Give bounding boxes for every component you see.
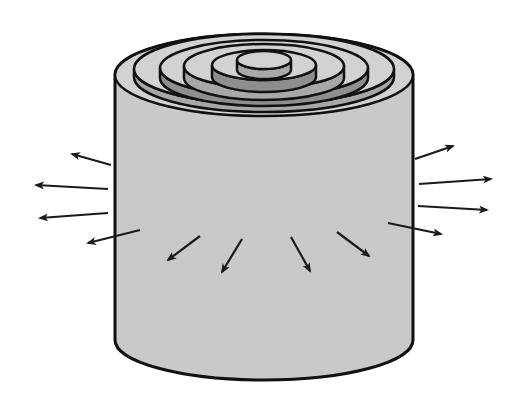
concentric-cylinder-diagram [0,0,523,399]
arrow-right-9 [419,179,491,184]
ring-5 [237,51,291,69]
arrow-left-2 [40,213,108,218]
arrow-left-1 [36,185,108,189]
arrow-left-0 [72,154,111,165]
arrow-right-8 [415,146,453,159]
concentric-rings [115,34,413,116]
diagram-stage [0,0,523,399]
arrow-right-10 [418,206,487,210]
